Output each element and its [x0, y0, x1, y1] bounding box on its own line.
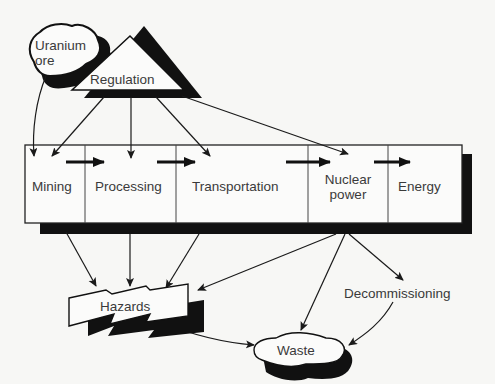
waste-label: Waste — [277, 343, 315, 358]
uranium-ore-label: Uranium ore — [35, 38, 86, 68]
decommissioning-label: Decommissioning — [344, 286, 451, 301]
uranium-ore-line1: Uranium — [35, 38, 86, 53]
stage-transportation-label: Transportation — [192, 179, 279, 194]
nuclear-power-line1: Nuclear — [318, 172, 378, 187]
hazards-label: Hazards — [100, 299, 150, 314]
uranium-ore-line2: ore — [35, 53, 86, 68]
regulation-label: Regulation — [90, 72, 155, 87]
stage-processing-label: Processing — [95, 179, 162, 194]
nuclear-power-line2: power — [318, 187, 378, 202]
stage-mining-label: Mining — [32, 179, 72, 194]
stage-nuclear-power-label: Nuclear power — [318, 172, 378, 202]
stage-energy-label: Energy — [398, 179, 441, 194]
